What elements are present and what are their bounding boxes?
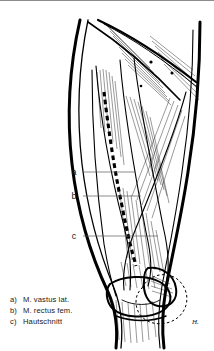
callout-letter-a: a: [71, 167, 76, 177]
figure-root: a b c H. a) M. vastus lat. b) M. rectus …: [0, 0, 214, 351]
legend-key: b): [10, 305, 23, 316]
callout-letter-b: b: [71, 191, 76, 201]
artist-signature: H.: [191, 318, 199, 326]
legend-key: a): [10, 294, 23, 305]
figure-legend: a) M. vastus lat. b) M. rectus fem. c) H…: [10, 294, 140, 327]
legend-item: c) Hautschnitt: [10, 316, 140, 327]
legend-label: M. rectus fem.: [23, 305, 140, 316]
legend-label: M. vastus lat.: [23, 294, 140, 305]
legend-label: Hautschnitt: [23, 316, 140, 327]
legend-item: b) M. rectus fem.: [10, 305, 140, 316]
legend-item: a) M. vastus lat.: [10, 294, 140, 305]
legend-key: c): [10, 316, 23, 327]
callout-letter-c: c: [72, 231, 77, 241]
